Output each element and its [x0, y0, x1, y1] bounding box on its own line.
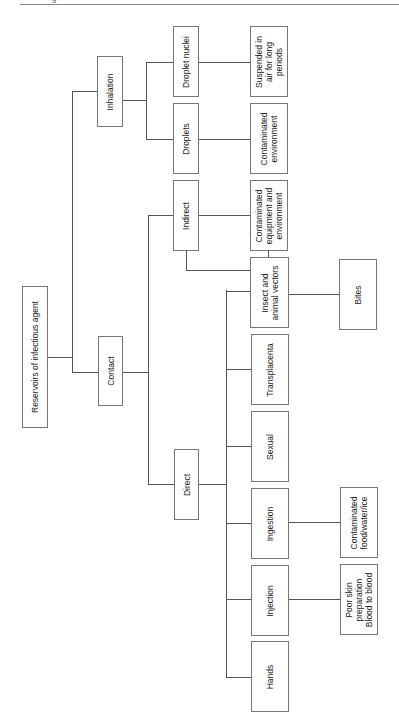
connector — [226, 446, 251, 447]
connector — [146, 139, 173, 140]
connector — [148, 215, 173, 216]
connector — [289, 522, 340, 523]
inhalation-box: Inhalation — [97, 56, 123, 127]
hands-box: Hands — [251, 641, 289, 712]
transplacenta-box: Transplacenta — [251, 334, 289, 405]
connector — [199, 215, 250, 216]
indirect-box: Indirect — [173, 180, 199, 251]
insect-vectors-label: Insect and animal vectors — [260, 265, 280, 320]
droplet-nuclei-box: Droplet nuclei — [173, 26, 199, 97]
poor-skin-box: Poor skin preparation Blood to blood — [340, 564, 378, 635]
contaminated-equipment-label: Contaminated equipment and environment — [254, 187, 284, 243]
connector — [199, 484, 227, 485]
connector — [226, 599, 251, 600]
contaminated-environment-label: Contaminated environment — [259, 112, 279, 165]
droplet-nuclei-label: Droplet nuclei — [181, 36, 191, 88]
connector — [148, 215, 149, 485]
header-rule — [20, 4, 399, 5]
contaminated-equipment-box: Contaminated equipment and environment — [250, 180, 288, 251]
ingestion-box: Ingestion — [251, 488, 289, 559]
connector — [289, 294, 339, 295]
connector — [72, 91, 73, 373]
bites-label: Bites — [353, 285, 363, 304]
connector — [123, 372, 149, 373]
connector — [146, 62, 173, 63]
connector — [199, 139, 250, 140]
contaminated-environment-box: Contaminated environment — [250, 103, 288, 174]
poor-skin-label: Poor skin preparation Blood to blood — [344, 572, 374, 626]
inhalation-label: Inhalation — [105, 73, 115, 110]
root-box: Reservoirs of infectious agent — [22, 286, 48, 428]
indirect-label: Indirect — [181, 202, 191, 230]
transplacenta-label: Transplacenta — [265, 343, 275, 397]
contact-label: Contact — [106, 356, 116, 385]
direct-label: Direct — [182, 473, 192, 495]
injection-box: Injection — [251, 565, 289, 636]
connector — [48, 357, 73, 358]
connector — [199, 62, 250, 63]
connector — [72, 372, 98, 373]
ingestion-label: Ingestion — [265, 506, 275, 541]
droplets-box: Droplets — [173, 103, 199, 174]
connector — [186, 251, 187, 271]
contaminated-food-label: Contaminated food/water/ice — [349, 496, 369, 549]
connector — [148, 484, 174, 485]
connector — [226, 369, 251, 370]
droplets-label: Droplets — [181, 123, 191, 155]
connector — [226, 523, 251, 524]
contaminated-food-box: Contaminated food/water/ice — [340, 487, 378, 558]
injection-label: Injection — [265, 585, 275, 617]
insect-vectors-box: Insect and animal vectors — [250, 257, 289, 328]
connector — [146, 62, 147, 140]
sexual-label: Sexual — [265, 434, 275, 460]
bites-box: Bites — [339, 259, 377, 330]
connector — [186, 270, 250, 271]
connector — [226, 290, 227, 678]
header-mark: g — [52, 0, 56, 3]
hands-label: Hands — [265, 664, 275, 689]
connector — [72, 91, 98, 92]
root-label: Reservoirs of infectious agent — [30, 301, 40, 413]
contact-box: Contact — [98, 336, 123, 406]
suspended-box: Suspended in air for long periods — [250, 26, 288, 97]
suspended-label: Suspended in air for long periods — [254, 36, 284, 88]
sexual-box: Sexual — [251, 411, 289, 482]
direct-box: Direct — [174, 449, 199, 520]
connector — [289, 599, 340, 600]
connector — [226, 291, 251, 292]
connector — [226, 677, 251, 678]
connector — [123, 100, 147, 101]
